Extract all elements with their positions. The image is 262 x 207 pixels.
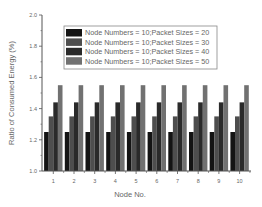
x-tick-label: 10 — [237, 178, 243, 184]
bar — [168, 132, 173, 171]
bar — [152, 116, 157, 171]
x-tick-label: 8 — [197, 178, 200, 184]
bar — [69, 116, 74, 171]
bar — [99, 85, 104, 171]
y-tick-label: 1.6 — [29, 74, 37, 80]
bar — [115, 102, 120, 171]
x-tick-label: 2 — [72, 178, 75, 184]
bar — [182, 85, 187, 171]
bar — [235, 116, 240, 171]
bar — [53, 102, 58, 171]
bar — [132, 116, 137, 171]
bar — [86, 132, 91, 171]
legend-label: Node Numbers = 10;Packet Sizes = 20 — [85, 28, 209, 37]
bar — [219, 102, 224, 171]
legend-label: Node Numbers = 10;Packet Sizes = 50 — [85, 57, 209, 66]
x-axis-label: Node No. — [114, 190, 146, 199]
bar — [210, 132, 215, 171]
bar — [136, 102, 141, 171]
bar — [148, 132, 153, 171]
legend-label: Node Numbers = 10;Packet Sizes = 40 — [85, 47, 209, 56]
bar — [58, 85, 63, 171]
y-axis-label: Ratio of Consumed Energy (%) — [7, 41, 16, 145]
legend-swatch — [66, 57, 82, 64]
y-tick-label: 1.0 — [29, 168, 37, 174]
bar — [141, 85, 146, 171]
bar — [194, 116, 199, 171]
bar-chart: 1.01.21.41.61.82.0 12345678910 Node No. … — [0, 0, 262, 207]
bar — [240, 102, 245, 171]
bar — [198, 102, 203, 171]
x-tick-label: 4 — [114, 178, 117, 184]
bar — [178, 102, 183, 171]
bar — [111, 116, 116, 171]
bar — [189, 132, 194, 171]
bar — [127, 132, 132, 171]
bar — [49, 116, 54, 171]
bar — [79, 85, 84, 171]
bar — [65, 132, 70, 171]
legend-swatch — [66, 29, 82, 37]
bar — [244, 85, 249, 171]
y-tick-label: 2.0 — [29, 12, 37, 18]
y-ticks-group: 1.01.21.41.61.82.0 — [29, 12, 42, 174]
bar — [161, 85, 166, 171]
legend: Node Numbers = 10;Packet Sizes = 20Node … — [64, 26, 217, 69]
bar — [74, 102, 79, 171]
y-tick-label: 1.8 — [29, 43, 37, 49]
x-ticks-group: 12345678910 — [52, 171, 250, 184]
bar — [95, 102, 100, 171]
bar — [214, 116, 219, 171]
x-tick-label: 7 — [176, 178, 179, 184]
legend-swatch — [66, 38, 82, 46]
bar — [157, 102, 162, 171]
x-tick-label: 6 — [155, 178, 158, 184]
x-tick-label: 1 — [52, 178, 55, 184]
y-tick-label: 1.4 — [29, 106, 37, 112]
y-tick-label: 1.2 — [29, 137, 37, 143]
bar — [44, 132, 49, 171]
x-tick-label: 9 — [217, 178, 220, 184]
x-tick-label: 5 — [135, 178, 138, 184]
bars-group — [44, 85, 249, 171]
bar — [224, 85, 229, 171]
bar — [173, 116, 178, 171]
legend-swatch — [66, 48, 82, 56]
bar — [120, 85, 125, 171]
bar — [90, 116, 95, 171]
x-tick-label: 3 — [93, 178, 96, 184]
bar — [203, 85, 208, 171]
legend-label: Node Numbers = 10;Packet Sizes = 30 — [85, 38, 209, 47]
bar — [230, 132, 235, 171]
bar — [106, 132, 111, 171]
